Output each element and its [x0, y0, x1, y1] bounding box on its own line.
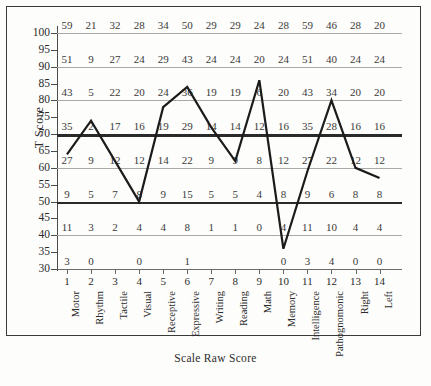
raw-score-value: 50 [182, 20, 193, 31]
raw-score-value: 8 [353, 189, 359, 200]
raw-score-value: 4 [353, 222, 359, 233]
raw-score-value: 17 [110, 121, 121, 132]
y-tick-mark [51, 151, 57, 152]
x-category-label: Expressive [191, 291, 202, 337]
y-tick-mark [51, 235, 57, 236]
raw-score-value: 11 [302, 222, 313, 233]
gridline [57, 235, 402, 236]
raw-score-value: 29 [182, 121, 193, 132]
y-tick-label: 100 [22, 27, 50, 39]
y-tick-label: 90 [22, 61, 50, 73]
raw-score-value: 5 [88, 87, 94, 98]
x-category-label: Tactile [119, 291, 130, 319]
y-tick-mark [51, 134, 57, 135]
x-tick-mark [283, 269, 284, 274]
raw-score-value: 21 [86, 20, 97, 31]
y-tick-label: 35 [22, 246, 50, 258]
x-tick-mark [91, 269, 92, 274]
raw-score-value: 6 [329, 189, 335, 200]
raw-score-value: 9 [88, 54, 94, 65]
raw-score-value: 2 [88, 121, 94, 132]
raw-score-value: 24 [158, 87, 169, 98]
y-tick-mark [51, 202, 57, 203]
raw-score-value: 19 [158, 121, 169, 132]
raw-score-value: 1 [209, 222, 215, 233]
raw-score-value: 7 [112, 189, 118, 200]
raw-score-value: 16 [374, 121, 385, 132]
x-tick-label: 11 [302, 276, 313, 287]
raw-score-value: 27 [302, 155, 313, 166]
x-category-label: Reading [239, 291, 250, 326]
x-tick-mark [115, 269, 116, 274]
x-tick-mark [356, 269, 357, 274]
x-axis-title: Scale Raw Score [0, 352, 431, 364]
raw-score-value: 3 [305, 256, 311, 267]
raw-score-value: 6 [257, 87, 263, 98]
raw-score-value: 29 [158, 54, 169, 65]
raw-score-value: 11 [62, 222, 73, 233]
raw-score-value: 34 [158, 20, 169, 31]
raw-score-value: 9 [88, 155, 94, 166]
x-tick-mark [380, 269, 381, 274]
chart-root: T Score 1009590858075706560555045403530 … [0, 0, 431, 386]
raw-score-value: 32 [110, 20, 121, 31]
raw-score-value: 14 [230, 121, 241, 132]
x-axis-line [57, 269, 402, 270]
raw-score-value: 16 [350, 121, 361, 132]
raw-score-value: 8 [136, 189, 142, 200]
x-category-label: Intelligence [311, 291, 322, 341]
raw-score-value: 43 [182, 54, 193, 65]
x-tick-mark [139, 269, 140, 274]
x-tick-mark [307, 269, 308, 274]
raw-score-value: 59 [302, 20, 313, 31]
raw-score-value: 12 [254, 121, 265, 132]
raw-score-value: 28 [350, 20, 361, 31]
y-tick-label: 95 [22, 44, 50, 56]
raw-score-value: 5 [209, 189, 215, 200]
x-tick-mark [331, 269, 332, 274]
raw-score-value: 9 [64, 189, 70, 200]
x-category-label: Memory [287, 291, 298, 327]
raw-score-value: 0 [281, 256, 287, 267]
x-tick-label: 12 [326, 276, 337, 287]
raw-score-value: 5 [233, 189, 239, 200]
x-category-label: Visual [143, 291, 154, 318]
y-tick-mark [51, 100, 57, 101]
raw-score-value: 43 [302, 87, 313, 98]
raw-score-value: 8 [377, 189, 383, 200]
y-tick-mark [51, 33, 57, 34]
raw-score-value: 28 [278, 20, 289, 31]
raw-score-value: 19 [230, 87, 241, 98]
x-tick-label: 4 [136, 276, 142, 287]
y-tick-mark [51, 84, 57, 85]
y-tick-label: 75 [22, 111, 50, 123]
raw-score-value: 28 [134, 20, 145, 31]
y-tick-label: 55 [22, 179, 50, 191]
x-tick-mark [235, 269, 236, 274]
raw-score-value: 24 [278, 54, 289, 65]
raw-score-value: 4 [160, 222, 166, 233]
raw-score-value: 9 [233, 155, 239, 166]
raw-score-value: 2 [112, 222, 118, 233]
x-category-label: Rhythm [95, 291, 106, 325]
x-tick-label: 1 [64, 276, 70, 287]
gridline [57, 100, 402, 101]
x-tick-label: 13 [350, 276, 361, 287]
raw-score-value: 22 [182, 155, 193, 166]
x-tick-label: 10 [278, 276, 289, 287]
x-tick-label: 5 [160, 276, 166, 287]
raw-score-value: 24 [230, 54, 241, 65]
raw-score-value: 24 [254, 20, 265, 31]
raw-score-value: 12 [350, 155, 361, 166]
raw-score-value: 3 [88, 222, 94, 233]
gridline [57, 134, 402, 136]
raw-score-value: 0 [353, 256, 359, 267]
x-tick-mark [259, 269, 260, 274]
raw-score-value: 0 [136, 256, 142, 267]
y-tick-mark [51, 218, 57, 219]
y-tick-label: 85 [22, 78, 50, 90]
raw-score-value: 40 [326, 54, 337, 65]
x-category-label: Left [384, 291, 395, 309]
raw-score-value: 24 [374, 54, 385, 65]
raw-score-value: 22 [110, 87, 121, 98]
